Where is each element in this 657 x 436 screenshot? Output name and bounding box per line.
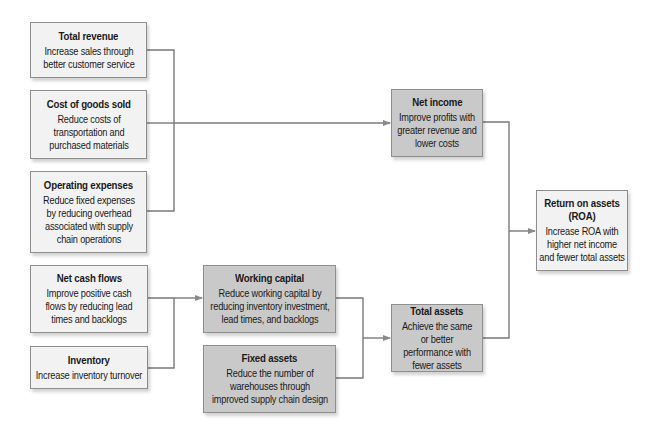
node-net-income: Net income Improve profits with greater … — [391, 89, 483, 157]
node-working-capital: Working capital Reduce working capital b… — [203, 265, 336, 333]
connector-ni-ta — [483, 122, 509, 338]
node-title: Operating expenses — [44, 179, 133, 192]
node-description: Improve positive cash flows by reducing … — [43, 287, 135, 326]
node-description: Reduce costs of transportation and purch… — [46, 113, 131, 152]
node-total-assets: Total assets Achieve the same or better … — [391, 304, 483, 372]
node-description: Increase inventory turnover — [36, 369, 143, 382]
node-description: Reduce fixed expenses by reducing overhe… — [39, 194, 138, 246]
connector-wc-fixed — [336, 298, 363, 378]
node-inventory: Inventory Increase inventory turnover — [30, 346, 148, 389]
node-title: Fixed assets — [242, 352, 298, 365]
node-net-cash-flows: Net cash flows Improve positive cash flo… — [30, 265, 148, 333]
node-total-revenue: Total revenue Increase sales through bet… — [30, 22, 147, 78]
node-title: Inventory — [68, 354, 110, 367]
node-description: Reduce the number of warehouses through … — [211, 367, 329, 406]
node-operating-expenses: Operating expenses Reduce fixed expenses… — [30, 171, 147, 253]
node-description: Achieve the same or better performance w… — [397, 320, 476, 372]
node-fixed-assets: Fixed assets Reduce the number of wareho… — [203, 345, 336, 413]
node-description: Reduce working capital by reducing inven… — [209, 287, 330, 326]
node-description: Improve profits with greater revenue and… — [395, 111, 480, 150]
node-description: Increase ROA with higher net income and … — [539, 225, 625, 264]
node-title: Return on assets (ROA) — [542, 197, 621, 223]
connector-net-cash-inventory — [148, 298, 174, 368]
node-title: Net income — [412, 96, 462, 109]
node-cost-of-goods-sold: Cost of goods sold Reduce costs of trans… — [30, 90, 147, 159]
node-description: Increase sales through better customer s… — [39, 45, 138, 71]
node-title: Total revenue — [59, 30, 119, 43]
node-return-on-assets: Return on assets (ROA) Increase ROA with… — [536, 190, 628, 271]
node-title: Cost of goods sold — [46, 98, 130, 111]
node-title: Net cash flows — [56, 272, 121, 285]
connector-total-revenue — [147, 50, 174, 211]
node-title: Working capital — [235, 272, 304, 285]
roa-driver-diagram: Total revenue Increase sales through bet… — [0, 0, 657, 436]
node-title: Total assets — [411, 305, 464, 318]
